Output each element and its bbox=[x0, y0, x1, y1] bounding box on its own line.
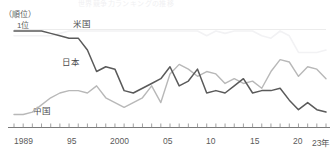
plot-area bbox=[0, 0, 332, 149]
x-tick-label: 1989 bbox=[14, 136, 33, 146]
x-tick-label: 23年 bbox=[312, 136, 330, 148]
series-path-米国 bbox=[14, 31, 326, 52]
line-series-japan bbox=[14, 31, 326, 112]
x-axis-ticks bbox=[14, 124, 326, 128]
line-series-us bbox=[14, 31, 326, 52]
competitiveness-ranking-chart: 世界競争力ランキングの推移 （順位） 1位 米国 日本 中国 198995200… bbox=[0, 0, 332, 149]
x-tick-label: 2000 bbox=[110, 136, 129, 146]
x-tick-label: 10 bbox=[206, 136, 215, 146]
series-path-日本 bbox=[14, 31, 326, 112]
x-tick-label: 05 bbox=[163, 136, 172, 146]
x-tick-label: 15 bbox=[250, 136, 259, 146]
x-tick-label: 20 bbox=[293, 136, 302, 146]
x-tick-label: 95 bbox=[67, 136, 76, 146]
